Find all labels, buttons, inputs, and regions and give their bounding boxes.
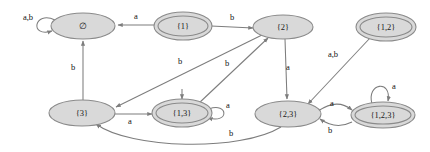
edge-s1-to-s2-b [211,26,253,28]
node-s13[interactable]: {1,3} [152,99,212,127]
nodes-layer: ∅ {1} {2} {1,2} {3} [49,12,416,128]
state-diagram-canvas: empty --> {2} --> empty (vertical) --> {… [0,0,430,152]
edge-label-s3-empty: b [71,62,75,72]
node-s1-label: {1} [177,21,189,31]
node-s13-label: {1,3} [173,108,192,118]
node-s3-label: {3} [76,108,88,118]
edge-label-s23-s3: b [229,128,233,138]
node-s3[interactable]: {3} [49,100,115,126]
edge-label-s3-s13: a [128,116,132,126]
edge-label-s23-s123: a [330,98,334,108]
node-s23[interactable]: {2,3} [255,101,321,127]
node-empty-label: ∅ [79,21,87,31]
node-s12[interactable]: {1,2} [356,13,416,41]
node-s1[interactable]: {1} [154,12,212,40]
edge-label-s13-s2: b [225,58,229,68]
edge-s2-to-s3-b [116,35,262,107]
edge-label-s123-self: a [392,81,396,91]
automaton-svg: empty --> {2} --> empty (vertical) --> {… [0,0,430,152]
edge-label-empty-self: a,b [23,12,33,22]
edge-label-s2-s3: b [178,56,182,66]
edge-label-s123-s23: b [328,125,332,135]
edge-label-s2-s23: a [286,62,290,72]
node-s123[interactable]: {1,2,3} [351,102,415,128]
node-s2[interactable]: {2} [253,15,313,39]
edge-s123-self-a [371,86,388,104]
edge-s12-to-s23-ab [308,38,370,104]
node-s12-label: {1,2} [377,22,396,32]
edge-label-s13-self: a [226,100,230,110]
edge-s123-to-s23-b [320,119,352,126]
node-s2-label: {2} [277,22,289,32]
edge-label-s12-s23: a,b [328,49,338,59]
edge-label-s1-empty: a [134,11,138,21]
edge-s23-to-s123-a [318,104,352,111]
node-s123-label: {1,2,3} [370,110,395,120]
node-empty[interactable]: ∅ [51,13,115,39]
edge-s13-to-s2-b [198,38,268,104]
node-s23-label: {2,3} [279,109,298,119]
edge-label-s1-s2: b [230,12,234,22]
